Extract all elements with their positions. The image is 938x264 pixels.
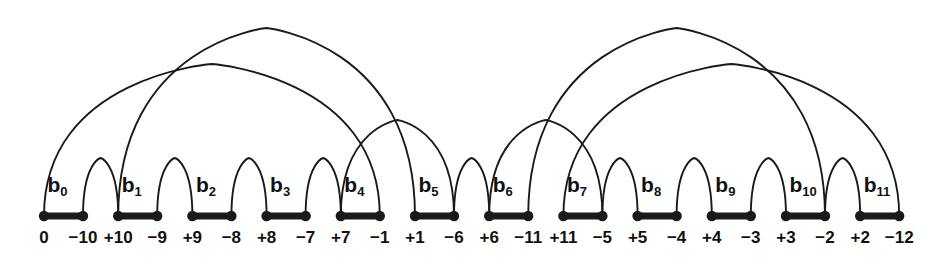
node-endpoint-left [855, 211, 865, 221]
endpoint-label-left-b11: +2 [850, 228, 869, 248]
node-name-b8: b8 [641, 173, 661, 197]
node-name-b6: b6 [493, 173, 513, 197]
endpoint-label-left-b2: +9 [183, 228, 202, 248]
endpoint-label-left-b5: +1 [405, 228, 424, 248]
endpoint-label-right-b1: −9 [147, 228, 166, 248]
endpoint-label-left-b4: +7 [331, 228, 350, 248]
endpoint-label-right-b11: −12 [885, 228, 914, 248]
node-endpoint-left [261, 211, 271, 221]
arc-mid-4-6 [341, 120, 454, 216]
arc-small-10-11 [825, 158, 860, 216]
endpoint-label-left-b3: +8 [257, 228, 276, 248]
arc-small-8-9 [677, 158, 712, 216]
endpoint-label-left-b8: +5 [628, 228, 647, 248]
endpoint-label-left-b7: +11 [549, 228, 577, 248]
node-endpoint-left [113, 211, 123, 221]
node-endpoint-right [375, 211, 385, 221]
endpoint-label-right-b0: −10 [69, 228, 98, 248]
endpoint-label-left-b9: +4 [702, 228, 721, 248]
endpoint-label-right-b5: −6 [444, 228, 463, 248]
node-endpoint-left [336, 211, 346, 221]
arc-small-1-2 [157, 158, 192, 216]
node-name-b9: b9 [715, 173, 735, 197]
arc-big-1-5 [118, 28, 415, 216]
node-endpoint-right [300, 211, 310, 221]
endpoint-label-right-b10: −2 [815, 228, 834, 248]
node-name-b5: b5 [419, 173, 439, 197]
node-endpoint-right [671, 211, 681, 221]
arc-small-2-3 [231, 158, 266, 216]
node-endpoint-right [746, 211, 756, 221]
node-name-b2: b2 [196, 173, 216, 197]
arc-small-0-1 [83, 158, 118, 216]
arc-small-9-10 [751, 158, 786, 216]
node-endpoint-right [226, 211, 236, 221]
node-endpoint-left [558, 211, 568, 221]
node-endpoint-left [410, 211, 420, 221]
arc-diagram-figure: b00−10b1+10−9b2+9−8b3+8−7b4+7−1b5+1−6b6+… [0, 0, 938, 264]
arc-small-3-4 [306, 158, 341, 216]
arc-small-5-6 [454, 158, 489, 216]
endpoint-label-right-b4: −1 [370, 228, 389, 248]
node-endpoint-left [484, 211, 494, 221]
node-name-b4: b4 [344, 173, 364, 197]
node-endpoint-left [39, 211, 49, 221]
node-endpoint-left [632, 211, 642, 221]
arc-mid-6-7 [489, 120, 602, 216]
node-name-b3: b3 [270, 173, 290, 197]
node-endpoint-right [894, 211, 904, 221]
endpoint-label-left-b0: 0 [39, 228, 48, 248]
node-endpoint-right [597, 211, 607, 221]
node-name-b1: b1 [122, 173, 142, 197]
endpoint-label-left-b10: +3 [776, 228, 795, 248]
endpoint-label-left-b6: +6 [479, 228, 498, 248]
endpoint-label-right-b9: −3 [741, 228, 760, 248]
node-name-b7: b7 [567, 173, 587, 197]
endpoint-label-right-b6: −11 [514, 228, 542, 248]
node-endpoint-right [449, 211, 459, 221]
endpoint-label-right-b7: −5 [593, 228, 612, 248]
endpoint-label-right-b8: −4 [667, 228, 686, 248]
endpoint-label-right-b2: −8 [222, 228, 241, 248]
node-name-b11: b11 [864, 173, 891, 197]
node-endpoint-right [78, 211, 88, 221]
arc-layer [0, 0, 938, 264]
node-endpoint-left [707, 211, 717, 221]
node-endpoint-right [152, 211, 162, 221]
node-endpoint-left [187, 211, 197, 221]
node-endpoint-right [523, 211, 533, 221]
node-endpoint-left [781, 211, 791, 221]
endpoint-label-left-b1: +10 [104, 228, 133, 248]
node-name-b0: b0 [48, 173, 68, 197]
node-endpoint-right [820, 211, 830, 221]
arc-small-7-8 [602, 158, 637, 216]
node-name-b10: b10 [790, 173, 817, 197]
endpoint-label-right-b3: −7 [296, 228, 315, 248]
